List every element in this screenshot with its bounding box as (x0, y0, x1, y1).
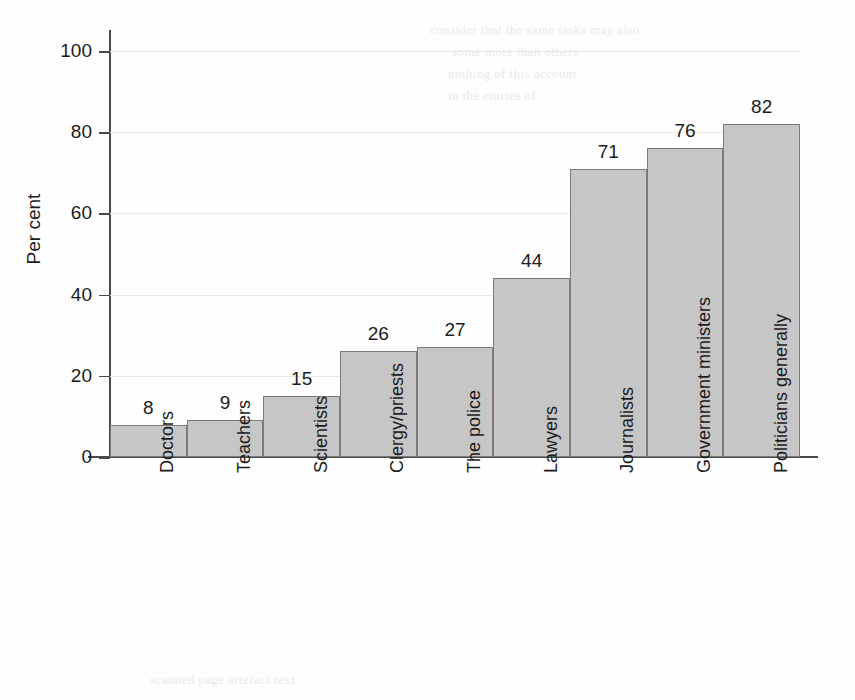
y-axis-tick-label: 60 (40, 202, 92, 224)
bar-value-label: 15 (263, 368, 340, 390)
y-axis-tick (99, 457, 110, 459)
y-axis-tick (99, 295, 110, 297)
y-axis-tick (99, 213, 110, 215)
y-axis-tick-label: 80 (40, 121, 92, 143)
x-axis-category-label: Politicians generally (771, 314, 792, 473)
x-axis-category-label: Scientists (311, 396, 332, 473)
gridline (110, 51, 800, 52)
x-axis-category-label: Doctors (157, 411, 178, 473)
y-axis-tick (99, 51, 110, 53)
bar-value-label: 71 (570, 141, 647, 163)
y-axis-tick (99, 376, 110, 378)
x-axis-category-label: Journalists (617, 387, 638, 473)
scan-bleed-text: consider that the same tasks may also (430, 22, 640, 38)
x-axis-category-label: Lawyers (541, 406, 562, 473)
bar-value-label: 82 (723, 96, 800, 118)
x-axis-category-label: Teachers (234, 400, 255, 473)
x-axis-category-label: The police (464, 390, 485, 473)
y-axis-tick-label: 0 (40, 446, 92, 468)
y-axis-tick-label: 20 (40, 365, 92, 387)
x-axis-category-label: Government ministers (694, 297, 715, 473)
y-axis-tick-label: 40 (40, 284, 92, 306)
scan-bleed-text: scanned page artefact text (150, 672, 295, 688)
x-axis-category-label: Clergy/priests (387, 363, 408, 473)
bar-value-label: 76 (647, 120, 724, 142)
bar-value-label: 44 (493, 250, 570, 272)
bar-chart: consider that the same tasks may also so… (0, 0, 855, 700)
y-axis-tick-label: 100 (40, 40, 92, 62)
y-axis-tick (99, 132, 110, 134)
bar-value-label: 27 (417, 319, 494, 341)
y-axis-title: Per cent (23, 184, 45, 274)
bar-value-label: 26 (340, 323, 417, 345)
